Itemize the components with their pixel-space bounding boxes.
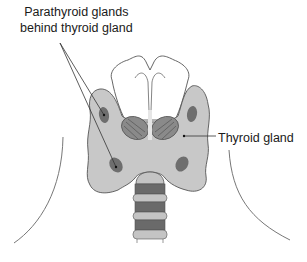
tracheal-midline [148,110,152,140]
parathyroid-label-line2: behind thyroid gland [20,20,133,36]
thyroid-label: Thyroid gland [218,130,294,146]
leader-line-parathyroid-upper [60,43,104,115]
parathyroid-label-line1: Parathyroid glands [20,4,133,20]
trachea [133,172,167,243]
neck-outline-right [229,150,290,240]
neck-outline-left [14,137,63,243]
thyroid-diagram: Parathyroid glands behind thyroid gland … [0,0,307,262]
parathyroid-label: Parathyroid glands behind thyroid gland [20,4,133,36]
